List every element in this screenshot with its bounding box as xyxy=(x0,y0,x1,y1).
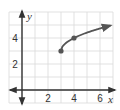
y-tick-label: 2 xyxy=(12,59,18,70)
x-tick-labels: 246 xyxy=(45,93,103,104)
x-tick-label: 2 xyxy=(45,93,51,104)
y-tick-labels: 24 xyxy=(12,33,18,70)
x-axis-label: x xyxy=(107,93,113,105)
data-point xyxy=(71,35,76,40)
y-axis-label: y xyxy=(26,10,32,22)
y-tick-label: 4 xyxy=(12,33,18,44)
x-tick-label: 4 xyxy=(71,93,77,104)
x-tick-label: 6 xyxy=(97,93,103,104)
function-graph: y x 246 24 xyxy=(0,0,120,110)
function-curve xyxy=(58,26,110,54)
data-point xyxy=(58,48,63,53)
